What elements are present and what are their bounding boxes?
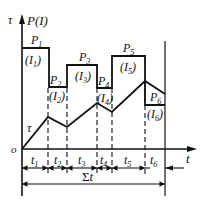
x-axis-label: t [186, 151, 190, 166]
total-label: Σt [82, 169, 94, 184]
label-t1: t1 [31, 153, 38, 169]
current-labels: (I1) (I2) (I3) (I4) (I5) (I6) [25, 53, 163, 123]
y-axis-label-tau: τ [8, 13, 13, 27]
label-t5: t5 [124, 153, 131, 169]
label-t2: t2 [54, 153, 61, 169]
label-I1: (I1) [25, 53, 41, 69]
label-P3: P3 [78, 50, 90, 66]
label-t4: t4 [100, 153, 107, 169]
label-P2: P2 [49, 73, 61, 89]
figure: τ P(I) t o τ P1 P2 P3 P4 P5 P6 (I1) (I2)… [0, 0, 204, 203]
label-I4: (I4) [97, 91, 113, 107]
interval-labels: t1 t2 t3 t4 t5 t6 [31, 153, 157, 169]
timing-diagram: τ P(I) t o τ P1 P2 P3 P4 P5 P6 (I1) (I2)… [0, 0, 204, 203]
label-P5: P5 [122, 41, 134, 57]
y-axis-arrow-icon [19, 14, 25, 24]
label-P4: P4 [97, 74, 109, 90]
y-axis-label-power: P(I) [26, 13, 48, 28]
label-I6: (I6) [147, 107, 163, 123]
label-t6: t6 [150, 153, 157, 169]
label-I3: (I3) [75, 69, 91, 85]
label-I2: (I2) [49, 89, 65, 105]
curve-label-tau: τ [27, 121, 32, 135]
label-P1: P1 [30, 33, 42, 49]
power-step-profile [22, 48, 165, 105]
origin-label: o [11, 143, 17, 155]
temperature-curve [22, 81, 165, 149]
label-P6: P6 [149, 90, 161, 106]
label-t3: t3 [78, 153, 85, 169]
label-I5: (I5) [120, 60, 136, 76]
